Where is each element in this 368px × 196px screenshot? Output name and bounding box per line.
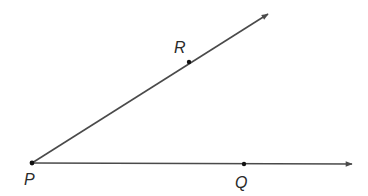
- label-q: Q: [235, 175, 247, 191]
- angle-diagram: P R Q: [0, 0, 368, 196]
- point-p: [30, 161, 35, 166]
- ray-pq: [32, 163, 352, 164]
- point-q: [242, 162, 246, 166]
- ray-pr: [32, 14, 268, 163]
- label-r: R: [174, 40, 186, 56]
- point-r: [187, 60, 191, 64]
- diagram-svg: [0, 0, 368, 196]
- label-p: P: [24, 172, 35, 188]
